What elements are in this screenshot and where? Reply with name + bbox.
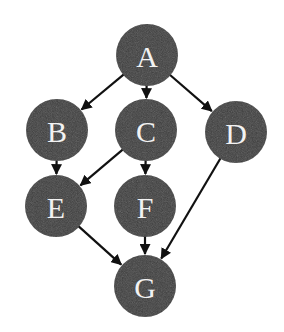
node-label: A xyxy=(136,40,158,73)
node-f: F xyxy=(114,175,176,237)
node-d: D xyxy=(205,101,267,163)
edge-e-to-g xyxy=(78,225,122,264)
node-c: C xyxy=(115,99,177,161)
node-label: D xyxy=(225,117,247,150)
node-label: B xyxy=(47,115,67,148)
node-label: C xyxy=(136,115,156,148)
dag-diagram: ABCDEFG xyxy=(0,0,284,332)
edge-a-to-b xyxy=(82,74,125,110)
edge-c-to-e xyxy=(80,149,123,186)
node-label: E xyxy=(47,191,65,224)
node-e: E xyxy=(25,175,87,237)
node-g: G xyxy=(114,255,176,317)
node-a: A xyxy=(116,24,178,86)
node-b: B xyxy=(26,99,88,161)
node-label: G xyxy=(134,271,156,304)
node-label: F xyxy=(137,191,154,224)
edge-a-to-d xyxy=(169,74,212,111)
